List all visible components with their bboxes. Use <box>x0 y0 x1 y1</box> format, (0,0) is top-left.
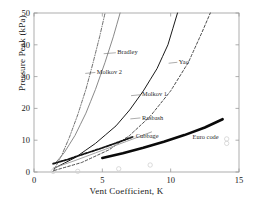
x-tick-label: 15 <box>235 175 244 185</box>
axis-ticks: 05101501020304050 <box>22 8 244 185</box>
annotation-label-euro-code: Euro code <box>193 133 219 140</box>
annotation-leader-line <box>130 118 140 119</box>
x-tick-label: 10 <box>166 175 175 185</box>
y-axis-label: Pressure Peak (kPa) <box>17 3 27 103</box>
curve-yao <box>55 13 211 170</box>
y-tick-label: 0 <box>26 167 30 177</box>
annotation-label-molkov-2: Molkov 2 <box>97 68 122 75</box>
data-curves <box>53 13 222 171</box>
scatter-point <box>148 163 152 167</box>
chart-figure: 05101501020304050 BradleyMolkov 2YaoMolk… <box>0 0 253 206</box>
scatter-point <box>76 169 80 173</box>
annotation-label-yao: Yao <box>179 58 189 65</box>
x-tick-label: 5 <box>100 175 104 185</box>
annotation-leader-line <box>169 62 178 63</box>
scatter-point <box>225 137 229 141</box>
scatter-point <box>117 167 121 171</box>
scatter-point <box>225 141 229 145</box>
curve-bradley <box>53 13 105 171</box>
y-tick-label: 20 <box>22 103 31 113</box>
annotation-label-cubbage: Cubbage <box>136 132 159 139</box>
annotation-label-bradley: Bradley <box>117 48 138 55</box>
chart-plot-area: 05101501020304050 BradleyMolkov 2YaoMolk… <box>0 0 253 206</box>
annotation-label-molkov-1: Molkov 1 <box>142 90 167 97</box>
x-tick-label: 0 <box>32 175 36 185</box>
curve-molkov-2 <box>55 13 121 164</box>
y-tick-label: 10 <box>22 135 31 145</box>
annotation-leader-line <box>104 53 116 54</box>
x-axis-label: Vent Coefficient, K <box>0 186 253 196</box>
annotation-leader-line <box>131 95 140 96</box>
annotation-label-rasbash: Rasbash <box>142 114 164 121</box>
curve-cubbage <box>53 137 132 164</box>
